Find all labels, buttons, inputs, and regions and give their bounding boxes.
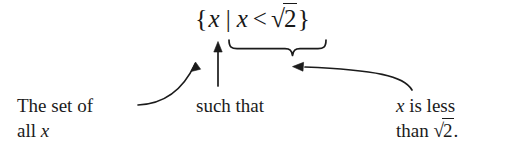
condition-variable: x — [236, 5, 249, 32]
label-right-line-1-text: is less — [404, 95, 455, 116]
label-right-radicand: 2 — [442, 118, 454, 141]
label-right-period: . — [454, 120, 459, 141]
underbrace — [229, 40, 326, 56]
label-right-line-2-text: than — [396, 120, 433, 141]
label-middle-line-1: such that — [196, 93, 264, 118]
label-the-set-of-all-x: The set of all x — [17, 93, 93, 143]
label-right-square-root: √2 — [433, 118, 453, 144]
label-left-line-2: all x — [17, 118, 93, 143]
arrow-x-is-less-than — [293, 62, 413, 90]
less-than-sign: < — [249, 5, 271, 32]
label-left-line-2-text: all — [17, 120, 41, 141]
separator-bar: | — [221, 5, 236, 32]
arrow-set-of-all-x — [138, 62, 201, 105]
set-builder-notation-figure: {x|x<√2} The set of all x such that x — [0, 0, 505, 151]
close-brace: } — [297, 4, 309, 33]
label-x-is-less-than: x is less than √2. — [396, 93, 458, 144]
arrowhead-left-icon — [293, 62, 304, 71]
arrow-such-that — [214, 42, 222, 87]
label-left-variable: x — [41, 120, 49, 141]
square-root-expression: √2 — [271, 6, 298, 32]
radicand: 2 — [283, 3, 298, 32]
element-variable: x — [208, 5, 221, 32]
open-brace: { — [195, 4, 207, 33]
arrowhead-up-icon — [214, 42, 222, 53]
label-left-line-1: The set of — [17, 93, 93, 118]
label-such-that: such that — [196, 93, 264, 118]
set-builder-expression: {x|x<√2} — [0, 6, 505, 32]
label-right-line-2: than √2. — [396, 118, 458, 144]
label-right-line-1: x is less — [396, 93, 458, 118]
arrowhead-up-right-icon — [191, 62, 200, 72]
